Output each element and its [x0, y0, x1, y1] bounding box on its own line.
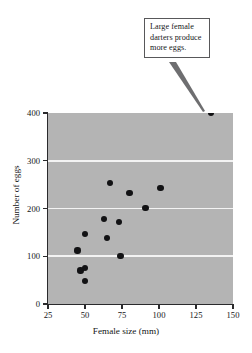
data-point — [142, 205, 148, 211]
data-point — [101, 216, 107, 222]
scatter-plot-figure: Large female darters produce more eggs. … — [0, 0, 252, 353]
x-tick-mark — [158, 305, 159, 309]
data-point — [117, 253, 123, 259]
data-point — [104, 235, 110, 241]
x-tick-mark — [195, 305, 196, 309]
x-tick-label: 25 — [35, 310, 61, 320]
x-axis-title: Female size (mm) — [0, 326, 252, 336]
annotation-line-2: darters produce — [150, 33, 205, 44]
x-tick-mark — [121, 305, 122, 309]
data-point — [82, 231, 88, 237]
x-tick-label: 75 — [109, 310, 135, 320]
x-tick-mark — [232, 305, 233, 309]
y-axis-title: Number of eggs — [11, 135, 21, 255]
data-point — [74, 247, 80, 253]
x-tick-label: 100 — [146, 310, 172, 320]
x-tick-label: 125 — [183, 310, 209, 320]
plot-area — [48, 113, 233, 304]
x-axis-line — [47, 304, 234, 305]
y-tick-mark — [43, 112, 47, 113]
y-tick-mark — [43, 208, 47, 209]
data-point — [208, 113, 214, 116]
x-tick-label: 150 — [220, 310, 246, 320]
data-point — [107, 180, 113, 186]
data-point — [82, 265, 88, 271]
data-point — [126, 190, 132, 196]
y-tick-label: 400 — [14, 108, 40, 118]
gridline — [48, 208, 233, 210]
y-tick-mark — [43, 303, 47, 304]
x-tick-label: 50 — [72, 310, 98, 320]
gridline — [48, 255, 233, 257]
data-point — [116, 219, 122, 225]
data-point — [82, 278, 88, 284]
y-axis-line — [47, 112, 48, 305]
data-point — [157, 185, 163, 191]
gridline — [48, 160, 233, 162]
y-tick-label: 0 — [14, 299, 40, 309]
y-tick-mark — [43, 256, 47, 257]
annotation-line-3: more eggs. — [150, 43, 205, 54]
x-tick-mark — [84, 305, 85, 309]
y-tick-mark — [43, 160, 47, 161]
x-tick-mark — [47, 305, 48, 309]
annotation-callout: Large female darters produce more eggs. — [144, 18, 210, 58]
annotation-line-1: Large female — [150, 22, 205, 33]
